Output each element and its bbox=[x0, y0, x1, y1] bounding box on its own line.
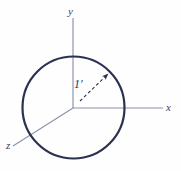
coordinate-system-figure: y x z 1′ bbox=[0, 0, 181, 171]
z-axis-label: z bbox=[6, 140, 10, 151]
radius-arrow-line bbox=[80, 74, 108, 101]
figure-canvas bbox=[0, 0, 181, 171]
x-axis-label: x bbox=[166, 102, 171, 113]
radius-value-label: 1′ bbox=[74, 78, 83, 90]
y-axis-label: y bbox=[68, 6, 73, 17]
